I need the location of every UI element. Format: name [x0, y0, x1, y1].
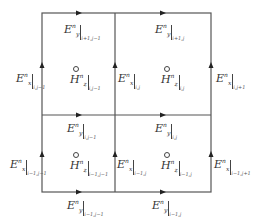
arrow-up-icon: [209, 151, 214, 157]
label-ey-i-jm1: Enyi,j−1: [67, 122, 96, 140]
arrow-right-icon: [160, 113, 166, 118]
label-ey-i1-jm1: Enyi+1,j−1: [64, 23, 101, 41]
arrow-right-icon: [160, 11, 166, 16]
label-ex-im1-j1: Enxi−1,j+1: [214, 158, 251, 176]
label-ex-im1-j: Enxi−1,j: [117, 158, 146, 176]
arrow-up-icon: [113, 151, 118, 157]
arrow-right-icon: [160, 190, 166, 195]
arrow-up-icon: [40, 151, 45, 157]
arrow-up-icon: [113, 62, 118, 68]
arrow-up-icon: [40, 62, 45, 68]
yee-grid: [0, 0, 258, 221]
arrow-right-icon: [76, 11, 82, 16]
label-ex-im1-jm1: Enxi−1,j−1: [10, 158, 47, 176]
arrow-right-icon: [76, 113, 82, 118]
arrow-right-icon: [76, 190, 82, 195]
label-hz-i-jm1: Hnzi,j−1: [70, 73, 101, 91]
label-ex-i-j: Enxi,j: [118, 72, 140, 90]
label-hz-im1-j: Hnzi−1,j: [161, 159, 192, 177]
arrow-up-icon: [209, 62, 214, 68]
label-hz-i-j: Hnzi,j: [161, 73, 184, 91]
label-hz-im1-jm1: Hnzi−1,j−1: [70, 159, 108, 177]
node-circle-icon: [164, 152, 170, 158]
node-circle-icon: [73, 66, 79, 72]
label-ey-i-j: Enyi,j: [155, 122, 177, 140]
label-ey-im1-j: Enyi−1,j: [152, 199, 181, 217]
label-ey-im1-jm1: Enyi−1,j−1: [67, 199, 104, 217]
label-ex-i-jm1: Enxi,j−1: [16, 72, 45, 90]
node-circle-icon: [164, 66, 170, 72]
label-ey-i1-j: Enyi+1,j: [155, 23, 184, 41]
label-ex-i-j1: Enxi,j+1: [216, 72, 245, 90]
node-circle-icon: [73, 152, 79, 158]
